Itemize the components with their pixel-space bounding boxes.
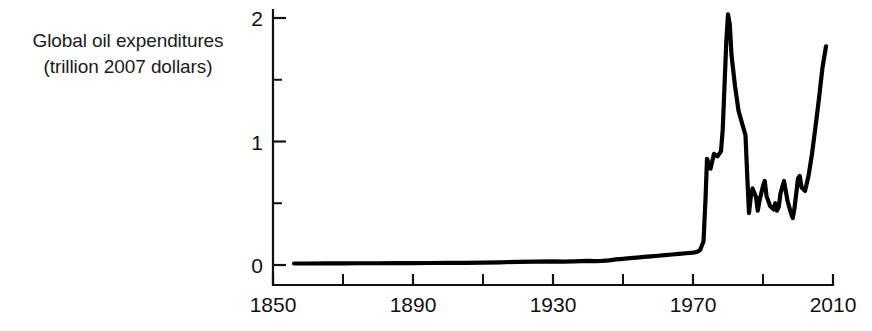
y-axis-label-line1: Global oil expenditures — [8, 28, 248, 54]
x-tick-label-1970: 1970 — [670, 293, 717, 316]
y-axis-label: Global oil expenditures (trillion 2007 d… — [8, 28, 248, 80]
tick-marks-group — [273, 18, 833, 285]
y-tick-label-1: 1 — [251, 131, 263, 154]
x-tick-label-1850: 1850 — [250, 293, 297, 316]
y-tick-label-2: 2 — [251, 7, 263, 30]
data-series-group — [294, 14, 826, 263]
axes-group — [273, 10, 833, 285]
data-curve-global-oil-expenditures — [294, 14, 826, 263]
y-tick-label-0: 0 — [251, 254, 263, 277]
chart-figure: Global oil expenditures (trillion 2007 d… — [0, 0, 872, 331]
x-tick-label-2010: 2010 — [810, 293, 857, 316]
axis-lines — [273, 10, 833, 285]
x-tick-label-1930: 1930 — [530, 293, 577, 316]
tick-labels-group: 01218501890193019702010 — [250, 7, 857, 316]
y-axis-label-line2: (trillion 2007 dollars) — [8, 54, 248, 80]
x-tick-label-1890: 1890 — [390, 293, 437, 316]
